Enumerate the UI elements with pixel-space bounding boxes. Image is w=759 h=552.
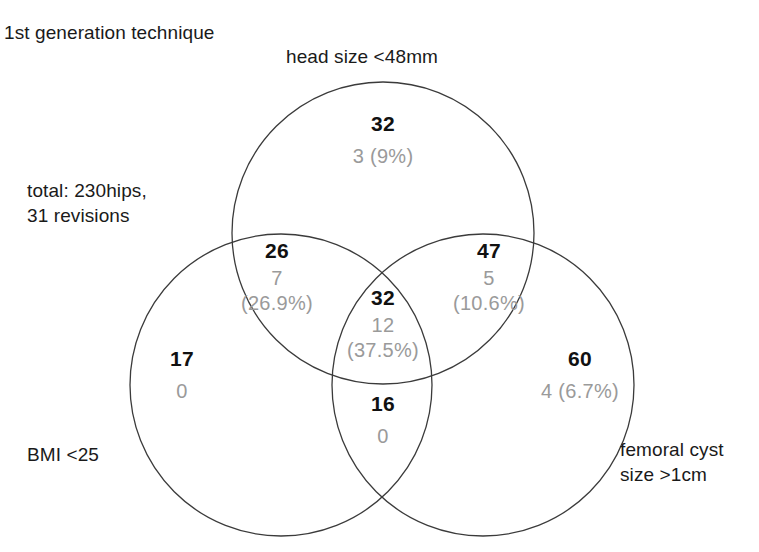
- venn-diagram-figure: 1st generation technique total: 230hips,…: [0, 0, 759, 552]
- region-top-only-count: 32: [353, 113, 414, 134]
- region-bmi-femoral-count: 16: [371, 393, 395, 414]
- region-head-femoral-count: 47: [453, 240, 525, 261]
- set-label-head-size: head size <48mm: [286, 44, 438, 69]
- region-femoral-only: 60 4 (6.7%): [541, 348, 619, 401]
- region-head-bmi-revisions: 7: [241, 268, 313, 288]
- region-all-three: 32 12 (37.5%): [347, 287, 419, 360]
- region-bmi-only-count: 17: [170, 348, 194, 369]
- region-head-femoral-revisions: 5: [453, 268, 525, 288]
- set-label-bmi: BMI <25: [27, 442, 99, 467]
- region-all-three-revisions: 12: [347, 315, 419, 335]
- region-bmi-only-revisions: 0: [170, 381, 194, 401]
- region-head-bmi-percent: (26.9%): [241, 293, 313, 313]
- region-bmi-femoral: 16 0: [371, 393, 395, 446]
- region-femoral-only-revisions: 4 (6.7%): [541, 381, 619, 401]
- region-head-bmi-count: 26: [241, 240, 313, 261]
- generation-technique-label: 1st generation technique: [4, 20, 215, 45]
- region-head-bmi: 26 7 (26.9%): [241, 240, 313, 313]
- region-bmi-only: 17 0: [170, 348, 194, 401]
- region-head-femoral-percent: (10.6%): [453, 293, 525, 313]
- total-summary-label: total: 230hips, 31 revisions: [27, 178, 147, 228]
- region-femoral-only-count: 60: [541, 348, 619, 369]
- region-head-femoral: 47 5 (10.6%): [453, 240, 525, 313]
- region-all-three-percent: (37.5%): [347, 340, 419, 360]
- region-bmi-femoral-revisions: 0: [371, 426, 395, 446]
- region-all-three-count: 32: [347, 287, 419, 308]
- region-top-only: 32 3 (9%): [353, 113, 414, 166]
- region-top-only-revisions: 3 (9%): [353, 146, 414, 166]
- set-label-femoral-cyst: femoral cyst size >1cm: [620, 437, 724, 487]
